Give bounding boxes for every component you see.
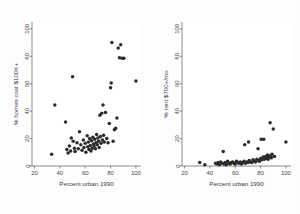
- right-panel: 02040608010020406080100Percent urban 199…: [150, 0, 300, 214]
- data-point: [90, 139, 94, 143]
- data-point: [119, 43, 123, 47]
- right-plot-area: [182, 22, 291, 166]
- data-point: [64, 120, 68, 124]
- data-point: [97, 146, 101, 150]
- data-point: [65, 148, 69, 152]
- right-x-axis-title: Percent urban 1990: [209, 180, 264, 187]
- left-x-axis-title: Percent urban 1990: [59, 180, 114, 187]
- data-point: [262, 138, 266, 142]
- data-point: [271, 127, 275, 131]
- data-point: [75, 141, 79, 145]
- right-x-tick-label: 40: [206, 170, 213, 176]
- data-point: [83, 142, 87, 146]
- data-point: [82, 146, 86, 150]
- data-point: [106, 141, 110, 145]
- left-y-tick-label: 20: [25, 135, 31, 142]
- data-point: [134, 79, 138, 83]
- data-point: [104, 111, 108, 115]
- data-point: [284, 140, 288, 144]
- data-point: [272, 155, 276, 159]
- data-point: [50, 153, 54, 157]
- data-point: [101, 103, 105, 107]
- data-point: [122, 57, 126, 61]
- left-x-tick-label: 20: [31, 170, 38, 176]
- left-y-axis-title: % homes cost $100K+: [12, 63, 19, 125]
- data-point: [85, 134, 89, 138]
- data-point: [116, 46, 120, 50]
- left-y-tick-label: 60: [25, 80, 31, 87]
- data-point: [95, 133, 99, 137]
- data-point: [71, 140, 75, 144]
- left-y-tick-label: 80: [25, 52, 31, 59]
- right-y-tick-label: 20: [174, 135, 180, 142]
- data-point: [109, 86, 113, 90]
- right-y-axis-title: % rent $700+/mo: [162, 70, 169, 118]
- data-point: [73, 150, 77, 154]
- data-point: [99, 135, 103, 139]
- right-y-tick-label: 80: [174, 52, 180, 59]
- data-point: [79, 143, 83, 147]
- left-x-tick-label: 40: [57, 170, 64, 176]
- data-point: [108, 122, 112, 126]
- data-point: [109, 81, 113, 85]
- left-y-tick-label: 40: [25, 107, 31, 114]
- data-point: [69, 149, 73, 153]
- data-point: [68, 144, 72, 148]
- data-point: [99, 142, 103, 146]
- data-point: [87, 140, 91, 144]
- data-point: [203, 163, 207, 167]
- right-x-tick-label: 20: [181, 170, 188, 176]
- data-point: [78, 130, 82, 134]
- scatter-plot-figure: 02040608010020406080100Percent urban 199…: [0, 0, 299, 214]
- data-point: [268, 121, 272, 125]
- data-point: [246, 140, 250, 144]
- left-y-tick-label: 100: [25, 23, 31, 34]
- left-x-tick-label: 60: [82, 170, 89, 176]
- data-point: [115, 116, 119, 120]
- left-x-tick-label: 100: [131, 170, 142, 176]
- left-y-tick-label: 0: [25, 164, 31, 168]
- right-x-tick-label: 100: [280, 170, 291, 176]
- data-point: [84, 151, 88, 155]
- data-point: [105, 137, 109, 141]
- right-y-tick-label: 60: [174, 80, 180, 87]
- data-point: [114, 127, 118, 131]
- data-point: [242, 143, 246, 147]
- right-y-tick-label: 40: [174, 107, 180, 114]
- right-y-tick-label: 0: [174, 164, 180, 168]
- right-panel-plot: 02040608010020406080100Percent urban 199…: [150, 0, 300, 214]
- data-point: [256, 147, 260, 151]
- right-x-tick-label: 80: [257, 170, 264, 176]
- data-point: [111, 140, 115, 144]
- data-point: [110, 41, 114, 45]
- data-point: [93, 138, 97, 142]
- data-point: [269, 156, 273, 160]
- data-point: [102, 140, 106, 144]
- data-point: [53, 103, 57, 107]
- data-point: [94, 147, 98, 151]
- data-point: [102, 133, 106, 137]
- left-x-tick-label: 80: [107, 170, 114, 176]
- data-point: [77, 147, 81, 151]
- data-point: [82, 138, 86, 142]
- left-panel-plot: 02040608010020406080100Percent urban 199…: [0, 0, 150, 214]
- data-point: [221, 150, 225, 154]
- right-y-tick-label: 100: [174, 23, 180, 34]
- left-panel: 02040608010020406080100Percent urban 199…: [0, 0, 150, 214]
- data-point: [197, 161, 201, 165]
- data-point: [71, 75, 75, 79]
- data-point: [100, 111, 104, 115]
- data-point: [73, 146, 77, 150]
- data-point: [70, 136, 74, 140]
- right-x-tick-label: 60: [231, 170, 238, 176]
